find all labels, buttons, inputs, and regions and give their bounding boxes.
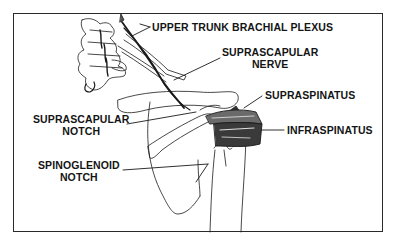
label-text: SUPRASCAPULAR bbox=[33, 113, 129, 125]
label-text: UPPER TRUNK BRACHIAL PLEXUS bbox=[152, 21, 333, 33]
label-text: INFRASPINATUS bbox=[287, 124, 373, 136]
label-text: SUPRASCAPULAR bbox=[222, 46, 318, 58]
label-text: NERVE bbox=[222, 58, 318, 70]
label-suprascapular-notch: SUPRASCAPULAR NOTCH bbox=[33, 113, 129, 137]
label-spinoglenoid-notch: SPINOGLENOID NOTCH bbox=[38, 159, 120, 183]
label-suprascapular-nerve: SUPRASCAPULAR NERVE bbox=[222, 46, 318, 70]
label-upper-trunk-brachial-plexus: UPPER TRUNK BRACHIAL PLEXUS bbox=[152, 21, 333, 33]
cervical-spine-drawing bbox=[78, 14, 126, 92]
label-text: SPINOGLENOID bbox=[38, 159, 120, 171]
label-text: NOTCH bbox=[33, 125, 129, 137]
label-infraspinatus: INFRASPINATUS bbox=[287, 124, 373, 136]
label-text: SUPRASPINATUS bbox=[265, 89, 355, 101]
label-supraspinatus: SUPRASPINATUS bbox=[265, 89, 355, 101]
infraspinatus-muscle-drawing bbox=[214, 123, 262, 147]
label-text: NOTCH bbox=[38, 171, 120, 183]
